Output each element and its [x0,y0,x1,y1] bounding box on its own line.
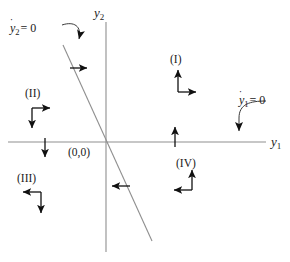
quadrant-label-I: (I) [170,54,182,66]
y2dot-nullcline-line [63,45,152,241]
axis-lines [8,22,266,252]
quadrant-II-arrows [32,108,50,128]
direction-markers [45,68,175,186]
y2dot-label-leader [62,24,80,39]
quadrant-I-arrows [178,70,196,92]
quadrant-label-IV: (IV) [176,158,196,170]
quadrant-III-arrows [23,192,41,213]
quadrant-IV-arrows [174,170,192,190]
y1-axis-label: y1 [271,135,281,151]
quadrant-label-III: (III) [17,173,36,185]
origin-label: (0,0) [68,147,90,159]
y1dot-nullcline-label: ̇y1= 0 [239,94,265,108]
quadrant-label-II: (II) [25,88,40,100]
phase-plane-figure: y2 y1 ̇y2= 0 ̇y1= 0 (0,0) (I) (II) (III)… [0,0,290,262]
y2dot-nullcline-label: ̇y2= 0 [10,22,36,36]
y2-axis-label: y2 [94,6,104,22]
diagram-canvas [0,0,290,262]
